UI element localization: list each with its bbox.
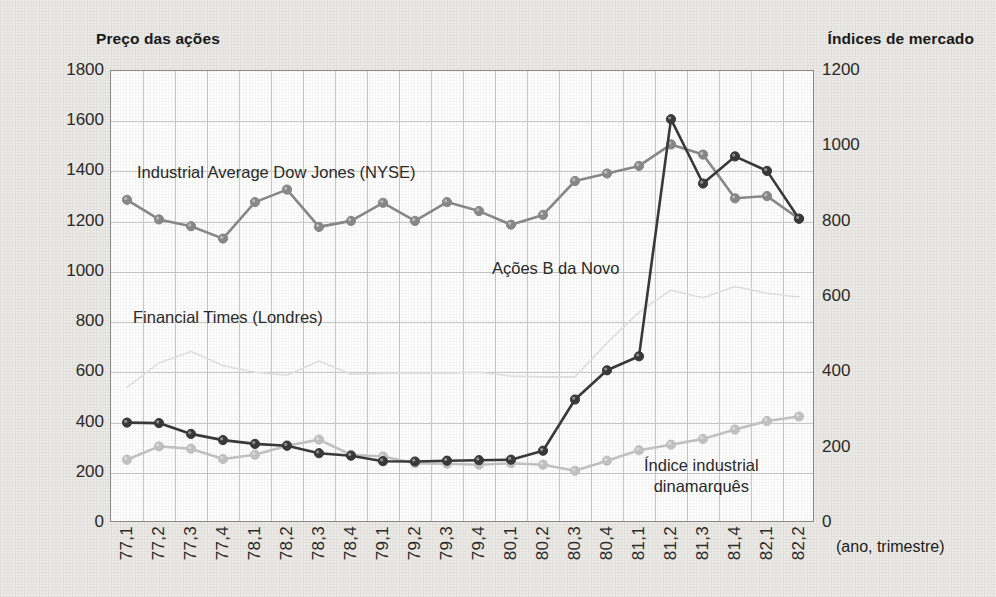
left-axis-ticks: 020040060080010001200140016001800 [40, 70, 104, 522]
data-point-marker [762, 166, 771, 175]
tick-label-left: 400 [44, 412, 104, 432]
data-point-marker [666, 440, 675, 449]
marker-highlight [796, 414, 799, 417]
data-point-marker [442, 198, 451, 207]
tick-label-x: 79,2 [405, 526, 425, 560]
data-point-marker [314, 435, 323, 444]
data-point-marker [730, 425, 739, 434]
data-point-marker [506, 455, 515, 464]
annotation-danish-index-line2: dinamarquês [644, 476, 759, 497]
data-point-marker [602, 366, 611, 375]
tick-label-x: 80,4 [597, 526, 617, 560]
right-axis-ticks: 020040060080010001200 [822, 70, 886, 522]
marker-highlight [220, 456, 223, 459]
data-point-marker [698, 179, 707, 188]
tick-label-x: 80,2 [533, 526, 553, 560]
x-axis-title: (ano, trimestre) [836, 538, 944, 556]
data-point-marker [218, 436, 227, 445]
marker-highlight [284, 443, 287, 446]
data-point-marker [154, 442, 163, 451]
series-2 [127, 287, 799, 388]
data-point-marker [346, 451, 355, 460]
tick-label-x: 78,1 [245, 526, 265, 560]
marker-highlight [348, 453, 351, 456]
marker-highlight [540, 462, 543, 465]
data-point-marker [122, 195, 131, 204]
marker-highlight [668, 116, 671, 119]
tick-label-x: 78,4 [341, 526, 361, 560]
marker-highlight [764, 168, 767, 171]
marker-highlight [252, 452, 255, 455]
tick-label-right: 200 [822, 437, 882, 457]
right-axis-title: Índices de mercado [827, 30, 974, 48]
tick-label-left: 1000 [44, 261, 104, 281]
marker-highlight [444, 458, 447, 461]
marker-highlight [572, 397, 575, 400]
marker-highlight [732, 154, 735, 157]
marker-highlight [220, 437, 223, 440]
marker-highlight [796, 216, 799, 219]
marker-highlight [220, 236, 223, 239]
series-line [127, 144, 799, 238]
tick-label-x: 79,1 [373, 526, 393, 560]
data-point-marker [218, 454, 227, 463]
data-point-marker [474, 207, 483, 216]
marker-highlight [316, 224, 319, 227]
data-point-marker [378, 198, 387, 207]
marker-highlight [572, 468, 575, 471]
tick-label-x: 82,2 [789, 526, 809, 560]
data-point-marker [442, 456, 451, 465]
marker-highlight [188, 446, 191, 449]
tick-label-left: 600 [44, 361, 104, 381]
marker-highlight [476, 457, 479, 460]
tick-label-x: 77,2 [149, 526, 169, 560]
data-point-marker [634, 161, 643, 170]
data-point-marker [474, 456, 483, 465]
marker-highlight [252, 199, 255, 202]
marker-highlight [380, 458, 383, 461]
data-point-marker [794, 214, 803, 223]
data-point-marker [570, 176, 579, 185]
marker-highlight [156, 444, 159, 447]
marker-highlight [284, 187, 287, 190]
marker-highlight [124, 197, 127, 200]
tick-label-right: 0 [822, 512, 882, 532]
tick-label-x: 79,4 [469, 526, 489, 560]
marker-highlight [156, 420, 159, 423]
annotation-danish-index-line1: Índice industrial [644, 455, 759, 476]
tick-label-right: 1000 [822, 135, 882, 155]
tick-label-right: 400 [822, 361, 882, 381]
data-point-marker [762, 416, 771, 425]
data-point-marker [186, 222, 195, 231]
data-point-marker [762, 192, 771, 201]
tick-label-x: 78,3 [309, 526, 329, 560]
marker-highlight [156, 217, 159, 220]
series-1 [122, 140, 803, 243]
tick-label-left: 800 [44, 311, 104, 331]
tick-label-x: 81,4 [725, 526, 745, 560]
tick-label-right: 800 [822, 211, 882, 231]
data-point-marker [602, 169, 611, 178]
data-point-marker [122, 455, 131, 464]
marker-highlight [252, 441, 255, 444]
marker-highlight [476, 208, 479, 211]
tick-label-left: 1400 [44, 160, 104, 180]
tick-label-left: 0 [44, 512, 104, 532]
data-point-marker [570, 466, 579, 475]
data-point-marker [698, 434, 707, 443]
data-point-marker [282, 185, 291, 194]
marker-highlight [700, 181, 703, 184]
marker-highlight [700, 152, 703, 155]
marker-highlight [572, 178, 575, 181]
tick-label-x: 77,3 [181, 526, 201, 560]
tick-label-left: 1800 [44, 60, 104, 80]
data-point-marker [314, 222, 323, 231]
tick-label-x: 81,3 [693, 526, 713, 560]
tick-label-left: 1200 [44, 211, 104, 231]
chart-root: Preço das ações Índices de mercado 02004… [0, 0, 996, 597]
annotation-danish-index: Índice industrial dinamarquês [644, 455, 759, 496]
marker-highlight [604, 171, 607, 174]
marker-highlight [444, 199, 447, 202]
x-axis-ticks: 77,177,277,377,478,178,278,378,479,179,2… [110, 526, 814, 588]
data-point-marker [602, 456, 611, 465]
